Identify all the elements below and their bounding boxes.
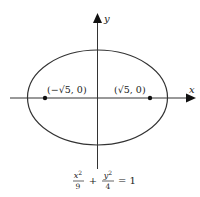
y-axis-label: y (103, 13, 110, 24)
right-focus-point (148, 96, 152, 100)
term2-numerator: y2 (103, 169, 113, 180)
ellipse-equation: x2 9 + y2 4 = 1 (73, 169, 136, 191)
term2-denominator: 4 (106, 182, 111, 191)
plus-sign: + (89, 175, 97, 186)
term1-numerator: x2 (74, 169, 83, 180)
x-axis-label: x (189, 84, 195, 95)
right-focus-label: (√5, 0) (114, 84, 146, 95)
equals-one: = 1 (118, 175, 136, 186)
left-focus-point (43, 96, 47, 100)
left-focus-label: (−√5, 0) (47, 84, 87, 95)
ellipse-diagram: x y (−√5, 0) (√5, 0) x2 9 + y2 4 = 1 (0, 0, 200, 197)
y-axis-arrow-icon (93, 13, 102, 23)
term1-denominator: 9 (76, 182, 81, 191)
